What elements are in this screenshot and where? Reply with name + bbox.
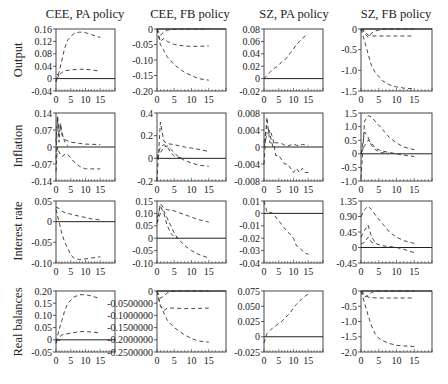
y-tick-label: 0 xyxy=(47,216,52,227)
series-line-upper-band xyxy=(56,118,100,159)
chart-panel: 0.140.070-0.07-0.14051015 xyxy=(31,108,115,196)
y-tick-label: 1.35 xyxy=(340,196,358,207)
x-tick-label: 10 xyxy=(392,266,402,277)
series-line-lower-band xyxy=(361,29,414,89)
chart-panel: 0.0750.0500.0250-0.025051015 xyxy=(234,286,323,367)
x-tick-label: 5 xyxy=(276,94,281,105)
y-tick-label: -0.02 xyxy=(239,233,260,244)
x-tick-label: 0 xyxy=(54,94,59,105)
x-tick-label: 0 xyxy=(262,266,267,277)
plot-frame xyxy=(361,29,432,91)
y-tick-label: 0.04 xyxy=(35,61,53,72)
x-tick-label: 5 xyxy=(68,266,73,277)
x-tick-label: 0 xyxy=(155,184,160,195)
x-tick-label: 10 xyxy=(81,184,91,195)
column-title: CEE, FB policy xyxy=(150,7,230,21)
y-tick-label: -0.5 xyxy=(341,301,357,312)
chart-panel: 0.160.120.080.040-0.04051015 xyxy=(31,24,115,106)
x-tick-label: 5 xyxy=(68,355,73,366)
y-tick-label: -0.01 xyxy=(239,220,260,231)
x-tick-label: 0 xyxy=(262,94,267,105)
series-line-lower-band xyxy=(157,211,209,258)
x-tick-label: 15 xyxy=(95,266,105,277)
y-tick-label: -0.05 xyxy=(31,347,52,358)
y-tick-label: -0.1000000 xyxy=(107,310,153,321)
series-line-middle xyxy=(157,291,209,311)
x-tick-label: 5 xyxy=(276,184,281,195)
chart-panel: 0.010-0.01-0.02-0.03-0.04051015 xyxy=(239,196,323,278)
y-tick-label: 0.02 xyxy=(243,61,261,72)
y-tick-label: 0 xyxy=(352,286,357,297)
chart-panel: 0.080.060.040.020-0.02051015 xyxy=(239,24,323,106)
x-tick-label: 15 xyxy=(204,355,214,366)
series-line-lower-band xyxy=(157,29,209,80)
plot-frame xyxy=(157,113,226,181)
x-tick-label: 0 xyxy=(54,355,59,366)
y-tick-label: -0.04 xyxy=(31,86,52,97)
series-line-middle xyxy=(361,29,414,36)
series-line-lower-band xyxy=(56,209,100,259)
y-tick-label: -0.05 xyxy=(31,237,52,248)
y-tick-label: 0.075 xyxy=(238,286,261,297)
y-tick-label: 0 xyxy=(148,233,153,244)
y-tick-label: 0.20 xyxy=(35,286,53,297)
x-tick-label: 5 xyxy=(172,355,177,366)
y-tick-label: 0.08 xyxy=(243,24,261,35)
x-tick-label: 5 xyxy=(172,94,177,105)
chart-panel: 1.51.00.50-0.5-1.0051015 xyxy=(341,108,432,196)
series-line-point xyxy=(56,74,60,82)
x-tick-label: 15 xyxy=(303,355,313,366)
series-line-point xyxy=(264,34,308,79)
series-line-middle xyxy=(361,291,414,298)
series-line-lower-band xyxy=(157,146,209,166)
panel-grid: 0.160.120.080.040-0.040510150-0.05-0.10-… xyxy=(31,24,432,367)
x-tick-label: 5 xyxy=(172,266,177,277)
plot-frame xyxy=(56,29,115,91)
y-tick-label: 0 xyxy=(148,286,153,297)
chart-panel: 0-0.5-1.0-1.5-2.0051015 xyxy=(341,286,432,367)
x-tick-label: 15 xyxy=(409,94,419,105)
x-tick-label: 0 xyxy=(359,355,364,366)
series-line-lower-band xyxy=(361,291,414,347)
y-tick-label: 0 xyxy=(255,73,260,84)
x-tick-label: 10 xyxy=(289,184,299,195)
x-tick-label: 15 xyxy=(303,184,313,195)
series-line-upper-band xyxy=(361,291,414,297)
column-title: SZ, PA policy xyxy=(259,7,329,21)
series-line-point xyxy=(264,294,308,343)
x-tick-label: 0 xyxy=(359,184,364,195)
x-tick-label: 15 xyxy=(303,94,313,105)
column-title: SZ, FB policy xyxy=(361,7,432,21)
chart-panel: 0.050-0.05-0.10051015 xyxy=(31,196,115,278)
y-tick-label: 0.45 xyxy=(340,227,358,238)
x-tick-label: 10 xyxy=(187,355,197,366)
y-tick-label: 0.15 xyxy=(35,298,53,309)
y-tick-label: -0.02 xyxy=(239,86,260,97)
x-tick-label: 0 xyxy=(359,266,364,277)
y-tick-label: -0.07 xyxy=(31,159,52,170)
x-tick-label: 0 xyxy=(54,184,59,195)
y-tick-label: 0.15 xyxy=(136,196,154,207)
y-tick-label: -0.45 xyxy=(336,258,357,269)
series-line-upper-band xyxy=(361,116,414,179)
plot-frame xyxy=(56,201,115,263)
x-tick-label: 15 xyxy=(409,355,419,366)
y-tick-label: 0.008 xyxy=(238,108,261,119)
x-tick-label: 15 xyxy=(409,266,419,277)
x-tick-label: 10 xyxy=(187,94,197,105)
x-tick-label: 15 xyxy=(95,355,105,366)
chart-panel: 0.0080.0040-0.004-0.008051015 xyxy=(234,108,323,196)
x-tick-label: 0 xyxy=(155,266,160,277)
x-tick-label: 0 xyxy=(359,94,364,105)
y-tick-label: -0.10 xyxy=(31,258,52,269)
plot-frame xyxy=(56,291,115,352)
x-tick-label: 5 xyxy=(376,94,381,105)
y-tick-label: 0.05 xyxy=(35,196,53,207)
chart-panel: 0-0.5-1.0-1.5051015 xyxy=(341,24,432,106)
y-tick-label: -0.05 xyxy=(132,39,153,50)
y-tick-label: 0 xyxy=(352,242,357,253)
y-tick-label: 0.05 xyxy=(35,322,53,333)
y-tick-label: -0.1500000 xyxy=(107,322,153,333)
series-line-upper-band xyxy=(56,207,100,220)
y-tick-label: 0 xyxy=(255,331,260,342)
